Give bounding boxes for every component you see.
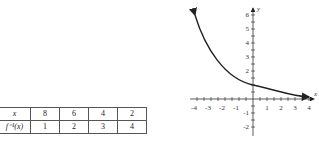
x-tick-label: 3 (293, 104, 297, 112)
exponential-graph: -4 -3 -2 -1 1 2 3 4 6 5 4 3 2 -1 -2 x y (180, 0, 319, 145)
table-cell: 6 (60, 108, 89, 121)
y-tick-label: 5 (246, 25, 250, 33)
table-cell: 4 (118, 121, 147, 134)
table-row-finv: f⁻¹(x) 1 2 3 4 (0, 121, 147, 134)
x-tick-label: -4 (191, 104, 197, 112)
values-table: x 8 6 4 2 f⁻¹(x) 1 2 3 4 (0, 107, 147, 134)
x-tick-label: -3 (205, 104, 211, 112)
y-axis-label: y (256, 5, 261, 13)
row-label-finv: f⁻¹(x) (0, 121, 31, 134)
x-tick-label: 1 (265, 104, 269, 112)
row-label-x: x (0, 108, 31, 121)
x-axis-label: x (313, 90, 318, 98)
table-row-x: x 8 6 4 2 (0, 108, 147, 121)
y-tick-label: -1 (243, 109, 249, 117)
y-tick-label: -2 (243, 123, 249, 131)
exponential-curve (195, 15, 309, 97)
x-tick-label: 2 (279, 104, 283, 112)
table-cell: 2 (60, 121, 89, 134)
table-cell: 4 (89, 108, 118, 121)
table-cell: 2 (118, 108, 147, 121)
table-cell: 3 (89, 121, 118, 134)
y-tick-label: 3 (246, 53, 250, 61)
x-tick-label: -1 (233, 104, 239, 112)
x-tick-label: -2 (219, 104, 225, 112)
y-tick-label: 2 (246, 67, 250, 75)
x-tick-label: 4 (307, 104, 311, 112)
table-cell: 1 (31, 121, 60, 134)
y-tick-label: 4 (246, 39, 250, 47)
y-tick-label: 6 (246, 11, 250, 19)
table-cell: 8 (31, 108, 60, 121)
